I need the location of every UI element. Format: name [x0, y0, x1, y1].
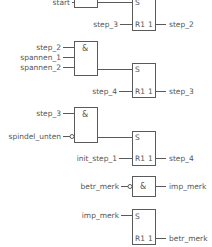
and-symbol: & [82, 110, 88, 119]
negation-circle [128, 185, 132, 189]
reset-input-label: step_3 [93, 20, 118, 29]
input-label: step_3 [36, 109, 61, 118]
input-label-start: start [53, 0, 71, 7]
and-symbol: & [140, 182, 146, 191]
set-label: S [135, 133, 140, 142]
set-label: S [135, 0, 140, 7]
output-label: step_3 [169, 87, 194, 96]
out-label: 1 [148, 234, 153, 243]
and-symbol: & [82, 44, 88, 53]
output-label: step_2 [169, 20, 194, 29]
reset-label: R1 [135, 234, 145, 243]
negation-circle [70, 135, 74, 139]
set-label: S [135, 65, 140, 74]
reset-label: R1 [135, 20, 145, 29]
out-label: 1 [148, 20, 153, 29]
output-label: step_4 [169, 154, 194, 163]
input-label: spindel_unten [8, 132, 61, 141]
reset-input-label: step_4 [92, 87, 117, 96]
input-label: spannen_1 [20, 53, 61, 62]
network-2: & step_2 spannen_1 spannen_2 S R1 1 step… [20, 42, 194, 98]
out-label: 1 [148, 154, 153, 163]
gate-box [75, 0, 98, 8]
output-label: betr_merk [169, 234, 208, 243]
input-label: spannen_2 [20, 63, 61, 72]
reset-label: R1 [135, 87, 145, 96]
reset-input-label: init_step_1 [77, 154, 118, 163]
set-label: S [135, 212, 140, 221]
set-input-label: imp_merk [82, 211, 120, 220]
output-label: imp_merk [169, 182, 207, 191]
input-label: betr_merk [81, 182, 120, 191]
network-4: betr_merk & imp_merk [81, 177, 207, 197]
network-5: imp_merk S R1 1 betr_merk [82, 210, 208, 245]
reset-label: R1 [135, 154, 145, 163]
network-3: & step_3 spindel_unten S R1 1 init_step_… [8, 108, 194, 166]
function-block-diagram: start S R1 1 step_3 step_2 & step_2 span… [0, 0, 212, 247]
input-label: step_2 [36, 43, 61, 52]
out-label: 1 [148, 87, 153, 96]
network-1: start S R1 1 step_3 step_2 [53, 0, 194, 31]
